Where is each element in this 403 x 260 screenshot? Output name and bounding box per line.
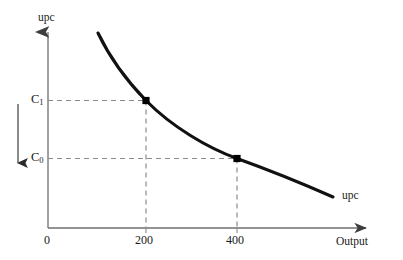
y-tick-label-c1: C1 bbox=[31, 93, 44, 106]
x-axis-title: Output bbox=[336, 236, 368, 248]
y-tick-label-c0: C0 bbox=[31, 151, 44, 164]
marker-point-c1 bbox=[142, 97, 149, 104]
y-axis-title: upc bbox=[38, 12, 55, 24]
marker-point-c0 bbox=[233, 155, 240, 162]
upc-curve bbox=[98, 33, 333, 197]
curve-label-upc: upc bbox=[342, 190, 359, 202]
upc-curve-figure: upc Output upc 0 200 400 C1 C0 bbox=[0, 0, 403, 260]
x-tick-label-200: 200 bbox=[135, 234, 153, 246]
x-tick-label-400: 400 bbox=[226, 234, 244, 246]
c1-subscript: 1 bbox=[39, 97, 43, 107]
chart-canvas bbox=[0, 0, 403, 260]
x-tick-label-0: 0 bbox=[44, 234, 50, 246]
c0-subscript: 0 bbox=[39, 155, 43, 165]
